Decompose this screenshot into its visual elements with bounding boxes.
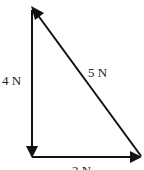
force-triangle-diagram: 4 N 5 N 3 N bbox=[0, 0, 144, 170]
vector-3n-arrowhead-icon bbox=[130, 151, 142, 163]
label-5n: 5 N bbox=[88, 65, 108, 80]
label-4n: 4 N bbox=[2, 73, 22, 88]
vector-3n bbox=[32, 151, 142, 163]
vector-4n bbox=[26, 10, 38, 158]
label-3n: 3 N bbox=[72, 163, 92, 170]
vector-5n-shaft bbox=[37, 14, 141, 156]
vector-5n bbox=[31, 6, 141, 156]
